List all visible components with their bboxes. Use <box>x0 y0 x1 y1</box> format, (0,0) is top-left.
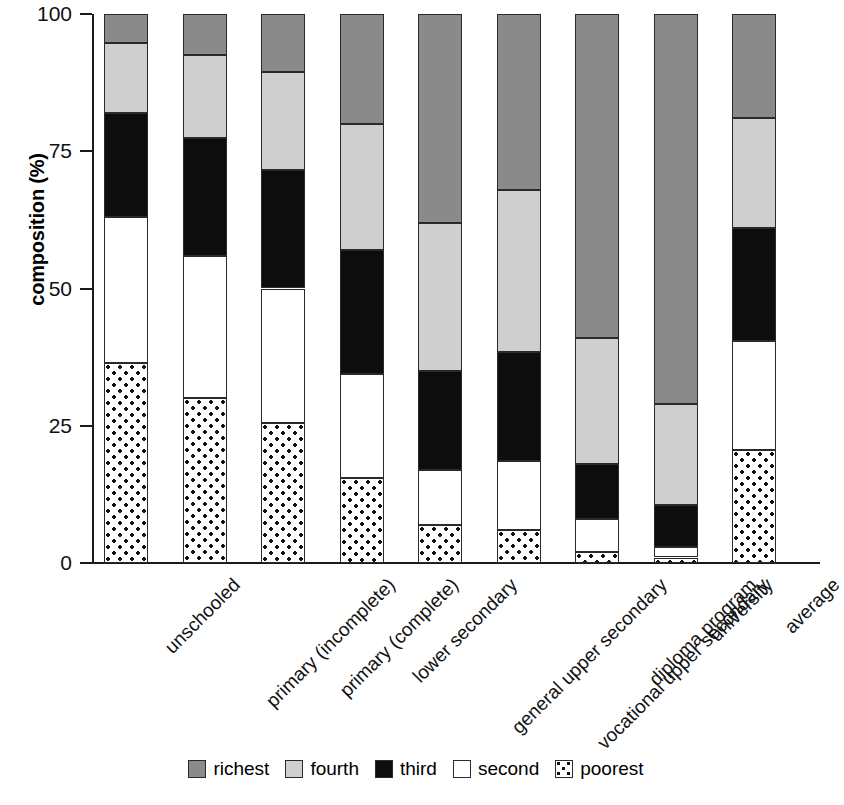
bar-segment-second[interactable] <box>418 470 462 525</box>
y-tick-mark <box>80 13 92 15</box>
bar-segment-poorest[interactable] <box>261 423 305 563</box>
bar-segment-third[interactable] <box>654 505 698 546</box>
bar-segment-poorest[interactable] <box>104 363 148 563</box>
legend-swatch-poorest-icon <box>555 760 573 778</box>
legend-label: richest <box>213 758 269 780</box>
y-tick-mark <box>80 562 92 564</box>
bar-diploma-program[interactable] <box>575 14 619 563</box>
y-tick-mark <box>80 150 92 152</box>
bar-general-upper-secondary[interactable] <box>418 14 462 563</box>
bar-segment-third[interactable] <box>575 464 619 519</box>
bar-segment-richest[interactable] <box>732 14 776 118</box>
legend-swatch-second-icon <box>453 760 471 778</box>
bar-segment-third[interactable] <box>732 228 776 341</box>
bar-lower-secondary[interactable] <box>340 14 384 563</box>
legend-item-richest[interactable]: richest <box>188 758 269 780</box>
y-tick-label: 50 <box>10 277 72 301</box>
bar-segment-second[interactable] <box>575 519 619 552</box>
bar-segment-fourth[interactable] <box>183 55 227 137</box>
bar-segment-third[interactable] <box>497 352 541 462</box>
bar-segment-richest[interactable] <box>340 14 384 124</box>
x-axis-label: unschooled <box>160 574 244 658</box>
bar-primary-incomplete-[interactable] <box>183 14 227 563</box>
x-axis-label: average <box>780 574 844 638</box>
bar-segment-second[interactable] <box>261 289 305 424</box>
bar-segment-second[interactable] <box>340 374 384 478</box>
bar-segment-poorest[interactable] <box>183 398 227 563</box>
bar-unschooled[interactable] <box>104 14 148 563</box>
bar-segment-fourth[interactable] <box>497 190 541 352</box>
legend-swatch-richest-icon <box>188 760 206 778</box>
legend-item-third[interactable]: third <box>375 758 437 780</box>
bar-vocational-upper-secondary[interactable] <box>497 14 541 563</box>
bar-segment-second[interactable] <box>654 547 698 558</box>
bar-segment-fourth[interactable] <box>732 118 776 228</box>
bar-segment-poorest[interactable] <box>575 552 619 563</box>
legend-label: second <box>478 758 539 780</box>
bar-segment-fourth[interactable] <box>575 338 619 464</box>
legend-item-fourth[interactable]: fourth <box>285 758 359 780</box>
bar-segment-poorest[interactable] <box>497 530 541 563</box>
bar-segment-poorest[interactable] <box>418 525 462 563</box>
y-tick-label: 100 <box>10 2 72 26</box>
bar-average[interactable] <box>732 14 776 563</box>
bar-primary-complete-[interactable] <box>261 14 305 563</box>
legend-label: third <box>400 758 437 780</box>
bar-segment-third[interactable] <box>340 250 384 374</box>
bar-segment-fourth[interactable] <box>654 404 698 506</box>
bar-segment-richest[interactable] <box>261 14 305 72</box>
bar-segment-third[interactable] <box>183 138 227 256</box>
bar-segment-fourth[interactable] <box>340 124 384 250</box>
x-axis-label: lower secondary <box>408 574 521 687</box>
bar-segment-third[interactable] <box>418 371 462 470</box>
bar-segment-third[interactable] <box>261 170 305 288</box>
bar-segment-fourth[interactable] <box>104 43 148 113</box>
bar-segment-richest[interactable] <box>497 14 541 190</box>
legend-label: fourth <box>310 758 359 780</box>
y-tick-mark <box>80 288 92 290</box>
legend-swatch-third-icon <box>375 760 393 778</box>
legend-item-poorest[interactable]: poorest <box>555 758 643 780</box>
y-tick-mark <box>80 425 92 427</box>
chart-legend: richestfourththirdsecondpoorest <box>0 758 832 780</box>
plot-area <box>92 14 810 563</box>
bar-university[interactable] <box>654 14 698 563</box>
bar-segment-second[interactable] <box>732 341 776 451</box>
bar-segment-richest[interactable] <box>418 14 462 223</box>
bar-segment-richest[interactable] <box>575 14 619 338</box>
y-tick-label: 75 <box>10 139 72 163</box>
legend-swatch-fourth-icon <box>285 760 303 778</box>
bar-segment-fourth[interactable] <box>418 223 462 371</box>
bar-segment-third[interactable] <box>104 113 148 217</box>
bar-segment-second[interactable] <box>183 256 227 399</box>
bar-segment-richest[interactable] <box>183 14 227 55</box>
bar-segment-poorest[interactable] <box>732 450 776 563</box>
y-tick-label: 0 <box>10 551 72 575</box>
bar-segment-richest[interactable] <box>654 14 698 404</box>
legend-label: poorest <box>580 758 643 780</box>
bar-segment-second[interactable] <box>104 217 148 362</box>
legend-item-second[interactable]: second <box>453 758 539 780</box>
bar-segment-poorest[interactable] <box>340 478 384 563</box>
bar-segment-richest[interactable] <box>104 14 148 43</box>
bar-segment-second[interactable] <box>497 461 541 530</box>
y-tick-label: 25 <box>10 414 72 438</box>
bar-segment-poorest[interactable] <box>654 558 698 563</box>
bar-segment-fourth[interactable] <box>261 72 305 171</box>
